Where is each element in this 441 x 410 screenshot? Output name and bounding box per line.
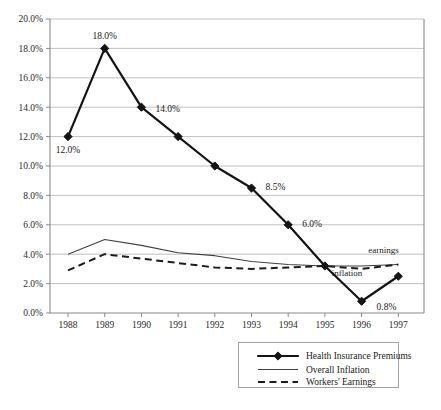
x-axis-tick-label: 1996 bbox=[352, 320, 371, 330]
data-point-label: 12.0% bbox=[56, 145, 81, 155]
x-axis-tick-label: 1997 bbox=[389, 320, 408, 330]
series-line-health-insurance-premiums bbox=[68, 48, 398, 301]
y-axis-tick-label: 8.0% bbox=[23, 191, 43, 201]
y-axis-tick-labels: 0.0%2.0%4.0%6.0%8.0%10.0%12.0%14.0%16.0%… bbox=[18, 14, 43, 318]
y-axis-tick-label: 2.0% bbox=[23, 279, 43, 289]
x-axis-tick-label: 1993 bbox=[242, 320, 261, 330]
y-axis-tick-label: 16.0% bbox=[18, 73, 43, 83]
x-axis-tick-labels: 1988198919901991199219931994199519961997 bbox=[59, 320, 409, 330]
y-axis-tick-label: 12.0% bbox=[18, 132, 43, 142]
annotation-label-earnings: earnings bbox=[368, 245, 399, 255]
x-axis-tick-label: 1995 bbox=[315, 320, 334, 330]
y-axis-tick-label: 6.0% bbox=[23, 220, 43, 230]
y-axis-tick-label: 0.0% bbox=[23, 308, 43, 318]
series-line-overall-inflation bbox=[68, 240, 398, 266]
data-point-label: 14.0% bbox=[155, 104, 180, 114]
y-axis-tick-label: 10.0% bbox=[18, 161, 43, 171]
x-axis-tick-label: 1988 bbox=[59, 320, 78, 330]
line-chart: 0.0%2.0%4.0%6.0%8.0%10.0%12.0%14.0%16.0%… bbox=[0, 0, 441, 410]
legend-item-label: Workers' Earnings bbox=[306, 377, 376, 387]
chart-legend: Health Insurance PremiumsOverall Inflati… bbox=[239, 343, 412, 388]
data-point-label: 8.5% bbox=[266, 182, 286, 192]
y-axis-tick-label: 20.0% bbox=[18, 14, 43, 24]
x-axis-tick-label: 1990 bbox=[132, 320, 151, 330]
data-point-label: 18.0% bbox=[92, 31, 117, 41]
x-axis-tick-label: 1989 bbox=[95, 320, 114, 330]
data-point-label: 6.0% bbox=[302, 219, 322, 229]
x-axis-tick-label: 1994 bbox=[279, 320, 298, 330]
x-axis-tick-marks bbox=[68, 313, 398, 317]
data-point-marker bbox=[64, 133, 72, 141]
legend-item-label: Health Insurance Premiums bbox=[306, 351, 412, 361]
data-point-label: 0.8% bbox=[377, 302, 397, 312]
legend-item-label: Overall Inflation bbox=[306, 365, 370, 375]
y-axis-tick-label: 4.0% bbox=[23, 250, 43, 260]
chart-container: 0.0%2.0%4.0%6.0%8.0%10.0%12.0%14.0%16.0%… bbox=[0, 0, 441, 410]
x-axis-tick-label: 1991 bbox=[169, 320, 188, 330]
x-axis-tick-label: 1992 bbox=[205, 320, 224, 330]
y-axis-tick-label: 18.0% bbox=[18, 44, 43, 54]
inline-annotations-group: earningsinflation bbox=[332, 245, 400, 279]
y-axis-tick-label: 14.0% bbox=[18, 103, 43, 113]
annotation-label-inflation: inflation bbox=[332, 268, 363, 278]
